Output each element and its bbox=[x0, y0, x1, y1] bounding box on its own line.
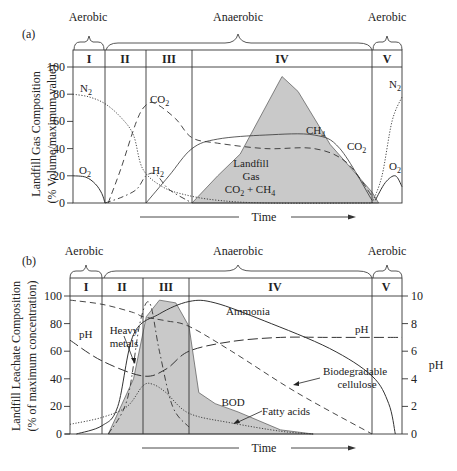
label-co2-iv-a: CO2 bbox=[347, 140, 366, 155]
label-biodegradable: Biodegradable bbox=[323, 365, 387, 377]
series-n2-phase-v bbox=[372, 97, 402, 203]
cellulose-pointer bbox=[296, 378, 320, 384]
panel-a: (a) Aerobic Anaerobic Aerobic Landfill G… bbox=[22, 10, 406, 224]
label-bod: BOD bbox=[221, 396, 244, 408]
label-n2-v-a: N2 bbox=[389, 78, 401, 93]
panel-b-label: (b) bbox=[22, 254, 36, 268]
phase-label-I-a: I bbox=[87, 52, 92, 66]
regime-aerobic-b1: Aerobic bbox=[65, 244, 104, 258]
label-heavy-top: Heavy bbox=[110, 324, 139, 336]
regime-anaerobic-a: Anaerobic bbox=[213, 10, 263, 24]
label-heavy: metals bbox=[110, 337, 139, 349]
y-tick-label: 0 bbox=[56, 427, 62, 441]
label-cellulose: cellulose bbox=[337, 378, 376, 390]
regime-anaerobic-b: Anaerobic bbox=[213, 244, 263, 258]
series-o2-phase-v bbox=[375, 176, 402, 201]
brace-anaerobic-b bbox=[104, 265, 372, 278]
brace-aerobic-a2 bbox=[373, 36, 402, 50]
phase-label-V-a: V bbox=[383, 52, 392, 66]
y-ticks-b: 020406080100 bbox=[44, 289, 70, 441]
series-h2 bbox=[105, 173, 192, 203]
y-tick-label: 40 bbox=[53, 142, 65, 156]
x-axis-label-b: Time bbox=[252, 441, 277, 455]
y-right-tick-label: 10 bbox=[411, 289, 423, 303]
panel-b: (b) Aerobic Anaerobic Aerobic Landfill L… bbox=[9, 244, 444, 455]
time-arrowhead-a bbox=[348, 215, 356, 220]
phase-label-IV-b: IV bbox=[268, 280, 282, 294]
y-axis-label-b: Landfill Leachate Composition bbox=[9, 281, 23, 431]
phase-label-IV-a: IV bbox=[275, 52, 289, 66]
y-tick-label: 20 bbox=[50, 399, 62, 413]
label-n2-a: N2 bbox=[80, 82, 92, 97]
y-tick-label: 100 bbox=[44, 289, 62, 303]
label-o2-v-a: O2 bbox=[389, 160, 401, 175]
brace-aerobic-b2 bbox=[373, 265, 402, 278]
phase-label-I-b: I bbox=[84, 280, 89, 294]
label-gas: Gas bbox=[242, 170, 259, 182]
phase-label-III-a: III bbox=[162, 52, 176, 66]
y-right-tick-label: 6 bbox=[411, 344, 417, 358]
brace-aerobic-a1 bbox=[74, 36, 104, 50]
regime-aerobic-a2: Aerobic bbox=[368, 10, 407, 24]
y-axis-sublabel-b: (% of maximum concentration) bbox=[25, 281, 39, 432]
y-tick-label: 0 bbox=[59, 196, 65, 210]
phase-label-II-b: II bbox=[117, 280, 127, 294]
cellulose-arrowhead bbox=[293, 381, 299, 386]
label-fatty-acids: Fatty acids bbox=[262, 405, 310, 417]
y-tick-label: 60 bbox=[50, 344, 62, 358]
phase-label-II-a: II bbox=[120, 52, 130, 66]
y-right-tick-label: 0 bbox=[411, 427, 417, 441]
brace-anaerobic-a bbox=[106, 34, 372, 50]
regime-aerobic-b2: Aerobic bbox=[368, 244, 407, 258]
y-axis-label-a: Landfill Gas Composition bbox=[29, 71, 43, 196]
brace-aerobic-b1 bbox=[70, 265, 102, 278]
label-ph-left: pH bbox=[79, 328, 93, 340]
y-tick-label: 20 bbox=[53, 169, 65, 183]
regime-aerobic-a1: Aerobic bbox=[69, 10, 108, 24]
phase-label-V-b: V bbox=[382, 280, 391, 294]
y-right-tick-label: 8 bbox=[411, 317, 417, 331]
y-tick-label: 80 bbox=[50, 317, 62, 331]
y-tick-label: 40 bbox=[50, 372, 62, 386]
y-ticks-right-b: 0246810 bbox=[402, 289, 423, 441]
panel-a-label: (a) bbox=[22, 27, 35, 41]
landfill-phases-figure: (a) Aerobic Anaerobic Aerobic Landfill G… bbox=[0, 0, 457, 471]
time-arrowhead-b bbox=[348, 446, 356, 451]
y-right-tick-label: 2 bbox=[411, 399, 417, 413]
label-ammonia: Ammonia bbox=[226, 305, 270, 317]
x-axis-label-a: Time bbox=[252, 210, 277, 224]
y-tick-label: 80 bbox=[53, 87, 65, 101]
y-tick-label: 60 bbox=[53, 114, 65, 128]
series-o2 bbox=[73, 176, 105, 203]
label-ph-right: pH bbox=[355, 323, 369, 335]
label-h2-a: H2 bbox=[152, 164, 164, 179]
y-right-tick-label: 4 bbox=[411, 372, 417, 386]
label-landfill: Landfill bbox=[233, 157, 268, 169]
y-tick-label: 100 bbox=[47, 60, 65, 74]
y-axis-right-label-b: pH bbox=[429, 358, 444, 372]
phase-label-III-b: III bbox=[159, 280, 173, 294]
